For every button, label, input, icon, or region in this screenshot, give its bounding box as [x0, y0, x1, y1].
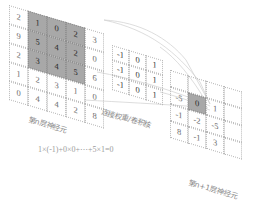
convolution-formula: 1×(-1)+0×0+⋯+5×1=0: [38, 145, 114, 154]
figure-canvas: 2 1 0 2 3 9 5 4 2 0 2 3 4 5 6 1 2 3 1 0 …: [0, 0, 266, 210]
